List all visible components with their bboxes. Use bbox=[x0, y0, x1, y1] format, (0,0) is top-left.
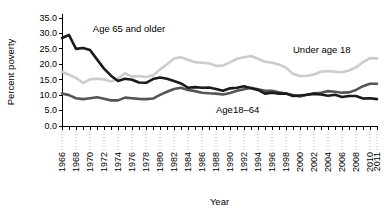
poverty-rate-line-chart: 0.05.010.015.020.025.030.035.0Percent po… bbox=[0, 0, 384, 215]
y-axis-title: Percent poverty bbox=[5, 38, 16, 105]
series-label-under-age-18: Under age 18 bbox=[293, 44, 351, 55]
x-tick-label: 1972 bbox=[99, 152, 109, 172]
x-tick-label: 1996 bbox=[267, 152, 277, 172]
x-tick-label: 1968 bbox=[71, 152, 81, 172]
series-line-age-18-64 bbox=[62, 84, 377, 101]
x-tick-label: 1994 bbox=[253, 152, 263, 172]
series-label-age-18-64: Age18–64 bbox=[216, 104, 259, 115]
x-tick-label: 1978 bbox=[141, 152, 151, 172]
x-tick-label: 1986 bbox=[197, 152, 207, 172]
x-tick-label: 2011 bbox=[372, 152, 382, 171]
x-tick-label: 2006 bbox=[337, 152, 347, 172]
x-tick-label: 2002 bbox=[309, 152, 319, 172]
chart-canvas: 0.05.010.015.020.025.030.035.0Percent po… bbox=[0, 0, 384, 215]
x-tick-label: 1984 bbox=[183, 152, 193, 172]
y-tick-label: 15.0 bbox=[39, 75, 57, 85]
x-tick-label: 1992 bbox=[239, 152, 249, 172]
x-tick-label: 1970 bbox=[85, 152, 95, 172]
y-tick-label: 20.0 bbox=[39, 59, 57, 69]
x-tick-label: 1990 bbox=[225, 152, 235, 172]
x-tick-label: 2008 bbox=[351, 152, 361, 172]
y-tick-label: 10.0 bbox=[39, 90, 57, 100]
x-tick-label: 1988 bbox=[211, 152, 221, 172]
y-tick-label: 35.0 bbox=[39, 13, 57, 23]
x-axis-title: Year bbox=[210, 196, 229, 207]
x-tick-label: 1980 bbox=[155, 152, 165, 172]
series-label-age-65-and-older: Age 65 and older bbox=[93, 23, 165, 34]
x-tick-label: 1974 bbox=[113, 152, 123, 172]
y-tick-label: 25.0 bbox=[39, 44, 57, 54]
y-tick-label: 0.0 bbox=[44, 121, 57, 131]
x-tick-label: 2004 bbox=[323, 152, 333, 172]
x-tick-label: 1998 bbox=[281, 152, 291, 172]
x-tick-label: 2000 bbox=[295, 152, 305, 172]
y-tick-label: 30.0 bbox=[39, 28, 57, 38]
x-tick-label: 1966 bbox=[57, 152, 67, 172]
x-tick-label: 1976 bbox=[127, 152, 137, 172]
y-tick-label: 5.0 bbox=[44, 105, 57, 115]
series-line-under-age-18 bbox=[62, 56, 377, 83]
x-tick-label: 1982 bbox=[169, 152, 179, 172]
